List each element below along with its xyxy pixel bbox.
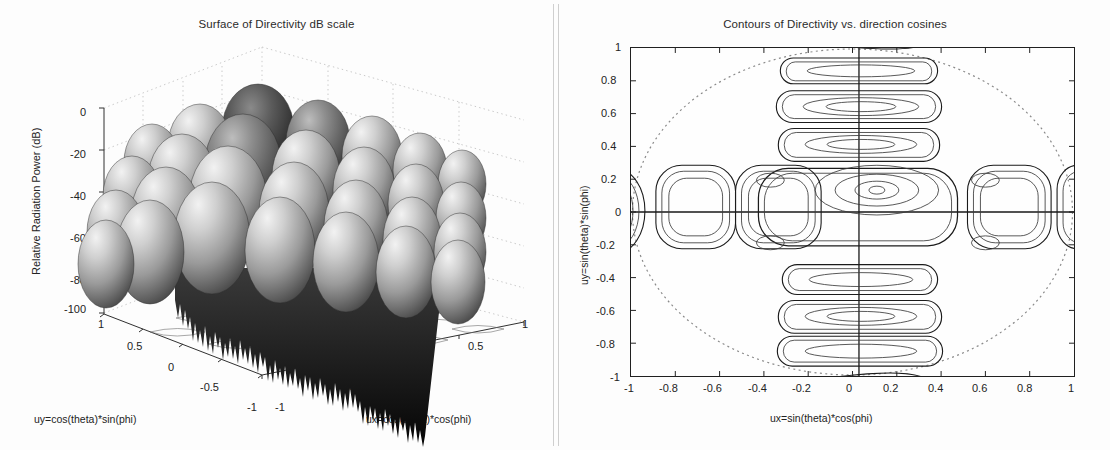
contour-axes-box bbox=[630, 47, 1075, 377]
contour-xtick-m08: -0.8 bbox=[659, 382, 678, 394]
panel-divider bbox=[553, 4, 560, 446]
contour-xtick-06: 0.6 bbox=[972, 382, 987, 394]
contour-plot-title: Contours of Directivity vs. direction co… bbox=[560, 18, 1110, 30]
contour-xtick-02: 0.2 bbox=[883, 382, 898, 394]
contour-ytick-m04: -0.4 bbox=[596, 272, 615, 284]
contour-xtick-m02: -0.2 bbox=[792, 382, 811, 394]
surface-plot-panel: Surface of Directivity dB scale Relative… bbox=[0, 0, 553, 450]
contour-xtick-m1: -1 bbox=[624, 382, 634, 394]
figure-canvas: Surface of Directivity dB scale Relative… bbox=[0, 0, 1110, 450]
contour-ytick-08: 0.8 bbox=[601, 74, 616, 86]
contour-ytick-m06: -0.6 bbox=[596, 305, 615, 317]
contour-y-axis-label: uy=sin(theta)*sin(phi) bbox=[578, 185, 590, 285]
contour-x-axis-label: ux=sin(theta)*cos(phi) bbox=[770, 412, 872, 424]
contour-xtick-04: 0.4 bbox=[928, 382, 943, 394]
contour-xtick-08: 0.8 bbox=[1017, 382, 1032, 394]
contour-xtick-m06: -0.6 bbox=[703, 382, 722, 394]
contour-ytick-m1: -1 bbox=[610, 371, 620, 383]
surface-3d-graphic bbox=[0, 0, 553, 450]
contour-xtick-0: 0 bbox=[846, 382, 852, 394]
contour-ytick-m08: -0.8 bbox=[596, 338, 615, 350]
contour-ytick-06: 0.6 bbox=[601, 107, 616, 119]
contour-ytick-04: 0.4 bbox=[601, 140, 616, 152]
contour-ytick-m02: -0.2 bbox=[596, 239, 615, 251]
contour-xtick-1: 1 bbox=[1068, 382, 1074, 394]
contour-graphic bbox=[631, 48, 1074, 376]
contour-plot-panel: Contours of Directivity vs. direction co… bbox=[560, 0, 1110, 450]
contour-xtick-m04: -0.4 bbox=[748, 382, 767, 394]
contour-ytick-0: 0 bbox=[615, 206, 621, 218]
contour-ytick-02: 0.2 bbox=[601, 173, 616, 185]
contour-ytick-1: 1 bbox=[615, 41, 621, 53]
